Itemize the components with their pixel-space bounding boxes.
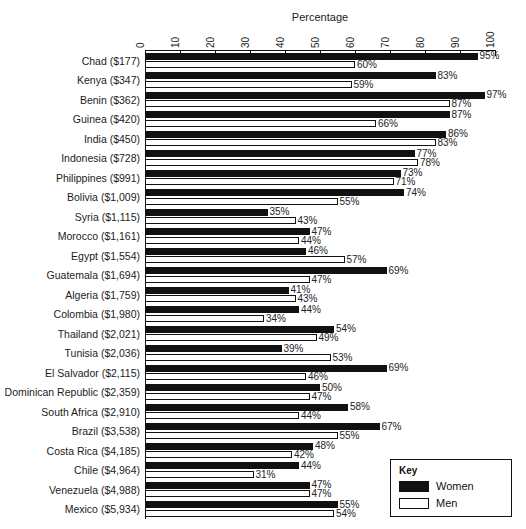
category-label: Dominican Republic ($2,359)	[5, 386, 140, 398]
x-tick-label: 10	[175, 26, 176, 48]
legend-swatch-women	[399, 481, 429, 492]
category-label: Indonesia ($728)	[61, 152, 140, 164]
bar-group: Brazil ($3,538)67%55%	[145, 422, 495, 442]
bar-value-men: 59%	[354, 80, 374, 89]
bar-value-women: 67%	[382, 422, 402, 431]
bar-women	[145, 345, 282, 352]
bar-group: Bolivia ($1,009)74%55%	[145, 188, 495, 208]
category-label: Chad ($177)	[82, 55, 140, 67]
bar-men	[145, 510, 334, 517]
bar-women	[145, 462, 299, 469]
bar-group: Costa Rica ($4,185)48%42%	[145, 441, 495, 461]
bar-men	[145, 159, 418, 166]
bar-value-women: 83%	[438, 71, 458, 80]
bar-value-men: 31%	[256, 470, 276, 479]
bar-value-women: 95%	[480, 51, 500, 60]
category-label: Chile ($4,964)	[74, 464, 140, 476]
bar-men	[145, 100, 450, 107]
bar-value-men: 87%	[452, 99, 472, 108]
legend-label-men: Men	[436, 497, 457, 509]
bar-value-women: 58%	[350, 402, 370, 411]
bar-women	[145, 92, 485, 99]
bar-value-women: 87%	[452, 110, 472, 119]
bar-value-men: 83%	[438, 138, 458, 147]
bar-value-women: 35%	[270, 207, 290, 216]
category-label: Guinea ($420)	[73, 113, 140, 125]
bar-women	[145, 228, 310, 235]
category-label: Colombia ($1,980)	[54, 308, 140, 320]
bar-group: Indonesia ($728)77%78%	[145, 149, 495, 169]
bar-group: Colombia ($1,980)44%34%	[145, 305, 495, 325]
bar-men	[145, 139, 436, 146]
x-tick-label: 70	[385, 26, 386, 48]
bar-men	[145, 315, 264, 322]
bar-group: Kenya ($347)83%59%	[145, 71, 495, 91]
bar-women	[145, 306, 299, 313]
x-tick-label: 30	[245, 26, 246, 48]
chart-root: Percentage 0102030405060708090100 Chad (…	[0, 0, 526, 529]
category-label: Philippines ($991)	[56, 172, 140, 184]
bar-group: Guatemala ($1,694)69%47%	[145, 266, 495, 286]
bar-group: Dominican Republic ($2,359)50%47%	[145, 383, 495, 403]
bar-group: Guinea ($420)87%66%	[145, 110, 495, 130]
bar-value-men: 55%	[340, 197, 360, 206]
bar-value-men: 44%	[301, 236, 321, 245]
bar-women	[145, 131, 446, 138]
bar-women	[145, 209, 268, 216]
bar-value-men: 57%	[347, 255, 367, 264]
bar-group: Thailand ($2,021)54%49%	[145, 324, 495, 344]
bar-group: Egypt ($1,554)46%57%	[145, 246, 495, 266]
bar-value-men: 42%	[294, 450, 314, 459]
category-label: Syria ($1,115)	[75, 211, 140, 223]
bar-women	[145, 53, 478, 60]
bar-men	[145, 412, 299, 419]
bar-value-women: 44%	[301, 461, 321, 470]
x-tick-label: 60	[350, 26, 351, 48]
bar-men	[145, 490, 310, 497]
bar-value-men: 43%	[298, 216, 318, 225]
category-label: Costa Rica ($4,185)	[47, 445, 140, 457]
bar-group: Algeria ($1,759)41%43%	[145, 285, 495, 305]
category-label: Bolivia ($1,009)	[67, 191, 140, 203]
bar-value-men: 54%	[336, 509, 356, 518]
bar-women	[145, 365, 387, 372]
bar-group: India ($450)86%83%	[145, 129, 495, 149]
bar-men	[145, 120, 376, 127]
bar-men	[145, 276, 310, 283]
bar-men	[145, 256, 345, 263]
category-label: Benin ($362)	[80, 94, 140, 106]
bar-value-men: 44%	[301, 411, 321, 420]
bar-value-women: 97%	[487, 90, 507, 99]
bar-women	[145, 111, 450, 118]
bar-value-women: 44%	[301, 305, 321, 314]
bar-women	[145, 287, 289, 294]
bar-men	[145, 237, 299, 244]
category-label: Mexico ($5,934)	[65, 503, 140, 515]
bar-value-men: 78%	[420, 158, 440, 167]
bar-value-men: 49%	[319, 333, 339, 342]
bar-men	[145, 217, 296, 224]
bar-men	[145, 432, 338, 439]
bar-value-women: 74%	[406, 188, 426, 197]
bar-men	[145, 198, 338, 205]
bar-value-men: 66%	[378, 119, 398, 128]
bar-group: El Salvador ($2,115)69%46%	[145, 363, 495, 383]
category-label: Thailand ($2,021)	[58, 328, 140, 340]
category-label: South Africa ($2,910)	[41, 406, 140, 418]
category-label: Tunisia ($2,036)	[65, 347, 140, 359]
bar-men	[145, 373, 306, 380]
bar-women	[145, 150, 415, 157]
bar-women	[145, 423, 380, 430]
bar-women	[145, 384, 320, 391]
category-label: Kenya ($347)	[77, 74, 140, 86]
category-label: India ($450)	[84, 133, 140, 145]
bar-value-women: 48%	[315, 441, 335, 450]
bar-women	[145, 189, 404, 196]
bar-value-men: 55%	[340, 431, 360, 440]
category-label: Venezuela ($4,988)	[49, 484, 140, 496]
bar-men	[145, 178, 394, 185]
bar-men	[145, 334, 317, 341]
bar-value-men: 46%	[308, 372, 328, 381]
legend-box: Key Women Men	[390, 459, 512, 517]
bar-value-women: 69%	[389, 266, 409, 275]
